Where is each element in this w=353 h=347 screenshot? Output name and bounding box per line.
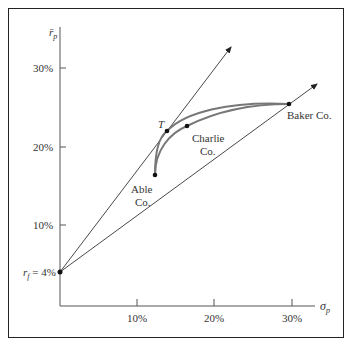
y-tick-label-10: 10% xyxy=(33,220,53,231)
y-axis-label: r̄p xyxy=(49,27,57,41)
x-tick-label-10: 10% xyxy=(127,313,147,324)
point-tangent xyxy=(165,129,170,134)
x-tick-label-20: 20% xyxy=(204,313,224,324)
cal-line-tangent xyxy=(60,47,231,272)
y-tick-label-30: 30% xyxy=(33,63,53,74)
chart-plot xyxy=(0,0,353,347)
point-able xyxy=(153,173,158,178)
point-charlie xyxy=(185,124,190,129)
baker-label: Baker Co. xyxy=(287,110,332,121)
tangent-label: T xyxy=(158,119,164,130)
x-axis-label: σp xyxy=(320,300,330,315)
able-label-line1: Able xyxy=(131,184,152,195)
y-tick-label-20: 20% xyxy=(33,142,53,153)
charlie-label-line1: Charlie xyxy=(192,133,224,144)
able-label-line2: Co. xyxy=(135,197,151,208)
x-tick-label-30: 30% xyxy=(282,313,302,324)
cal-line-baker xyxy=(60,84,317,272)
rf-label: rf = 4% xyxy=(23,267,56,281)
point-rf xyxy=(58,270,63,275)
charlie-label-line2: Co. xyxy=(200,146,216,157)
point-baker xyxy=(287,102,292,107)
